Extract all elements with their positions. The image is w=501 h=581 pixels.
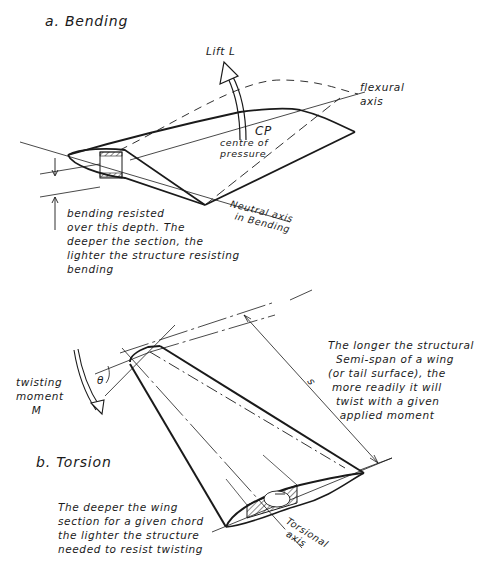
torsion-heading: b. Torsion [36,455,112,469]
span-note: The longer the structural Semi-span of a… [328,338,474,422]
theta-label: θ [97,373,104,387]
bending-depth-note: bending resisted over this depth. The de… [67,206,240,276]
cp-label: CP [255,124,272,138]
twisting-moment-label: twisting moment M [16,375,64,417]
centre-of-pressure-caption: centre of pressure [220,137,268,159]
flexural-axis-label: flexural axis [360,80,404,108]
lift-arrow-icon [220,62,246,140]
bending-heading: a. Bending [45,14,128,28]
torsion-depth-note: The deeper the wing section for a given … [58,500,204,556]
diagram-linework [0,0,501,581]
lift-label: Lift L [206,44,235,58]
